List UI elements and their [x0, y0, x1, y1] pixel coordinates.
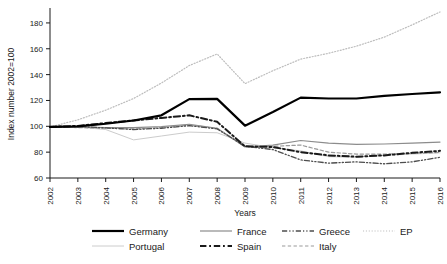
y-tick-label: 180 [30, 19, 44, 28]
x-tick-label: 2011 [297, 186, 306, 204]
x-axis-label: Years [234, 208, 255, 218]
y-tick-label: 160 [30, 45, 44, 54]
x-tick-label: 2007 [185, 186, 194, 204]
x-tick-label: 2009 [241, 186, 250, 204]
chart-legend: GermanyFranceGreeceEPPortugalSpainItaly [92, 226, 413, 252]
x-tick-label: 2003 [74, 186, 83, 204]
y-tick-label: 60 [34, 174, 43, 183]
x-tick-label: 2010 [269, 186, 278, 204]
legend-label-portugal: Portugal [129, 241, 164, 252]
x-tick-label: 2008 [213, 186, 222, 204]
legend-item-italy[interactable]: Italy [282, 241, 337, 252]
legend-label-france: France [237, 226, 267, 237]
series-line-spain [50, 115, 440, 156]
legend-item-greece[interactable]: Greece [282, 226, 350, 237]
line-chart: 6080100120140160180200220032004200520062… [0, 0, 447, 264]
x-tick-label: 2015 [408, 186, 417, 204]
x-tick-label: 2002 [46, 186, 55, 204]
series-line-portugal [50, 127, 440, 157]
y-tick-label: 140 [30, 71, 44, 80]
legend-label-greece: Greece [319, 226, 350, 237]
x-tick-label: 2013 [352, 186, 361, 204]
legend-label-germany: Germany [129, 226, 168, 237]
series-line-italy [50, 125, 440, 154]
legend-item-ep[interactable]: EP [363, 226, 413, 237]
x-tick-label: 2014 [380, 186, 389, 204]
x-tick-label: 2016 [436, 186, 445, 204]
legend-label-spain: Spain [237, 241, 261, 252]
y-axis-label: Index number 2002=100 [6, 48, 16, 141]
y-tick-label: 100 [30, 122, 44, 131]
x-tick-label: 2006 [157, 186, 166, 204]
legend-label-italy: Italy [319, 241, 337, 252]
series-group [50, 12, 440, 164]
legend-label-ep: EP [400, 226, 413, 237]
x-tick-label: 2004 [102, 186, 111, 204]
x-tick-label: 2012 [325, 186, 334, 204]
chart-figure: 6080100120140160180200220032004200520062… [0, 0, 447, 264]
series-line-ep [50, 12, 440, 127]
legend-item-germany[interactable]: Germany [92, 226, 168, 237]
legend-item-france[interactable]: France [200, 226, 267, 237]
x-tick-label: 2005 [130, 186, 139, 204]
y-tick-label: 120 [30, 96, 44, 105]
series-line-greece [50, 126, 440, 164]
legend-item-portugal[interactable]: Portugal [92, 241, 164, 252]
y-tick-label: 80 [34, 148, 43, 157]
legend-item-spain[interactable]: Spain [200, 241, 261, 252]
